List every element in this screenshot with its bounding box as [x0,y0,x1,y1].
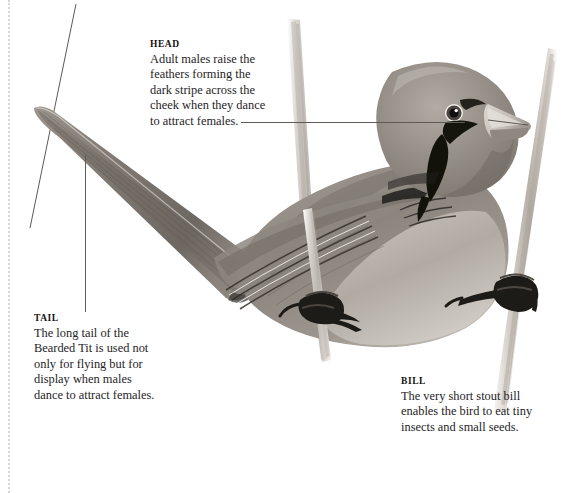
callout-tail: TAIL The long tail of the Bearded Tit is… [34,312,184,403]
callout-bill-line-3: insects and small seeds. [401,420,561,435]
callout-bill-line-1: The very short stout bill [401,389,561,404]
callout-bill-line-2: enables the bird to eat tiny [401,404,561,419]
callout-bill-body: The very short stout bill enables the bi… [401,389,561,435]
callout-tail-line-4: display when males [34,372,184,387]
callout-head-line-3: dark stripe across the [150,83,300,98]
callout-head-line-4: cheek when they dance [150,98,300,113]
callout-head-line-2: feathers forming the [150,67,300,82]
callout-head-line-1: Adult males raise the [150,52,300,67]
callout-tail-title: TAIL [34,312,184,325]
callout-tail-line-2: Bearded Tit is used not [34,341,184,356]
callout-head: HEAD Adult males raise the feathers form… [150,38,300,129]
callout-tail-line-3: only for flying but for [34,357,184,372]
callout-tail-body: The long tail of the Bearded Tit is used… [34,326,184,403]
callout-head-body: Adult males raise the feathers forming t… [150,52,300,129]
bearded-tit-eye [445,104,463,122]
leader-line-tail [85,155,86,312]
callout-head-title: HEAD [150,38,300,51]
illustration-plate: HEAD Adult males raise the feathers form… [0,0,582,493]
callout-bill-title: BILL [401,375,561,388]
callout-head-line-5: to attract females. [150,114,300,129]
callout-bill: BILL The very short stout bill enables t… [401,375,561,435]
callout-tail-line-5: dance to attract females. [34,388,184,403]
callout-tail-line-1: The long tail of the [34,326,184,341]
